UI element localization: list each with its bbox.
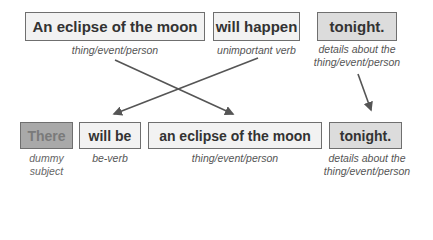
bottom-caption-subject: thing/event/person	[148, 152, 322, 165]
bottom-box-details-text: tonight.	[340, 128, 391, 144]
bottom-box-be-verb-text: will be	[89, 128, 132, 144]
bottom-box-dummy-subject-text: There	[27, 128, 65, 144]
bottom-box-details: tonight.	[329, 122, 402, 149]
bottom-box-dummy-subject: There	[20, 122, 73, 149]
bottom-caption-details: details about the thing/event/person	[312, 152, 422, 178]
arrow-details-to-details	[358, 74, 371, 110]
arrow-verb-to-beverb	[114, 58, 258, 114]
bottom-box-be-verb: will be	[79, 122, 141, 149]
bottom-box-subject-text: an eclipse of the moon	[159, 128, 311, 144]
bottom-box-subject: an eclipse of the moon	[148, 122, 322, 149]
bottom-caption-dummy-subject: dummy subject	[12, 152, 81, 178]
bottom-caption-be-verb: be-verb	[79, 152, 141, 165]
